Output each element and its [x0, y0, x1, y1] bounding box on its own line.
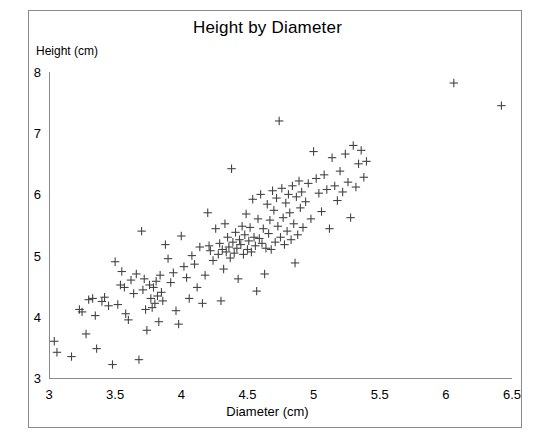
data-point — [344, 178, 352, 186]
data-point — [227, 164, 235, 172]
scatter-plot-canvas — [0, 0, 535, 442]
data-point — [268, 187, 276, 195]
data-point — [111, 258, 119, 266]
data-point — [320, 171, 328, 179]
data-point — [325, 224, 333, 232]
data-point — [256, 190, 264, 198]
data-point — [241, 231, 249, 239]
data-point — [180, 262, 188, 270]
x-tick-label: 3 — [29, 388, 69, 401]
data-point — [272, 194, 280, 202]
data-point — [88, 294, 96, 302]
data-point — [211, 224, 219, 232]
data-point — [266, 216, 274, 224]
data-point — [346, 213, 354, 221]
data-point — [254, 215, 262, 223]
data-point — [296, 204, 304, 212]
data-point — [250, 233, 258, 241]
data-point — [295, 177, 303, 185]
data-point — [284, 190, 292, 198]
data-point — [360, 173, 368, 181]
chart-figure: Height by Diameter Height (cm) Diameter … — [0, 0, 535, 442]
data-point — [217, 297, 225, 305]
data-point — [276, 233, 284, 241]
data-point — [274, 222, 282, 230]
data-point — [140, 275, 148, 283]
data-point — [237, 240, 245, 248]
data-point — [357, 146, 365, 154]
x-tick-label: 4.5 — [227, 388, 267, 401]
data-point — [84, 295, 92, 303]
data-point — [167, 278, 175, 286]
data-point — [132, 270, 140, 278]
data-point — [497, 101, 505, 109]
data-point — [297, 188, 305, 196]
data-point — [287, 235, 295, 243]
data-point — [352, 183, 360, 191]
data-point — [141, 305, 149, 313]
data-point — [317, 207, 325, 215]
data-point — [286, 209, 294, 217]
data-point — [182, 273, 190, 281]
data-point — [159, 297, 167, 305]
data-point — [288, 182, 296, 190]
data-point — [336, 167, 344, 175]
data-point — [53, 348, 61, 356]
data-point — [143, 326, 151, 334]
data-point — [137, 227, 145, 235]
data-point — [223, 233, 231, 241]
data-point — [161, 240, 169, 248]
data-point — [341, 150, 349, 158]
data-point — [201, 271, 209, 279]
y-tick-label: 8 — [23, 66, 41, 79]
x-tick-label: 6 — [426, 388, 466, 401]
data-point — [172, 306, 180, 314]
data-point — [328, 153, 336, 161]
data-point — [129, 289, 137, 297]
data-point — [92, 344, 100, 352]
x-tick-label: 5.5 — [360, 388, 400, 401]
data-point — [174, 320, 182, 328]
data-point — [135, 355, 143, 363]
data-point — [260, 270, 268, 278]
y-tick-label: 5 — [23, 249, 41, 262]
data-point — [169, 269, 177, 277]
data-point — [271, 238, 279, 246]
x-tick-label: 6.5 — [492, 388, 532, 401]
data-point — [252, 287, 260, 295]
data-point — [301, 198, 309, 206]
x-tick-label: 4 — [161, 388, 201, 401]
data-point — [315, 189, 323, 197]
data-point — [293, 231, 301, 239]
data-point — [157, 288, 165, 296]
y-tick-label: 3 — [23, 372, 41, 385]
data-point — [155, 317, 163, 325]
data-point — [108, 360, 116, 368]
data-point — [249, 195, 257, 203]
data-point — [219, 265, 227, 273]
y-tick-label: 6 — [23, 188, 41, 201]
data-point — [185, 294, 193, 302]
data-point — [245, 237, 253, 245]
data-point — [291, 259, 299, 267]
data-point — [338, 188, 346, 196]
data-point — [221, 220, 229, 228]
data-point — [292, 193, 300, 201]
data-point — [283, 227, 291, 235]
data-point — [139, 286, 147, 294]
data-point — [307, 215, 315, 223]
data-point — [190, 260, 198, 268]
data-point — [323, 185, 331, 193]
data-point — [50, 337, 58, 345]
data-point — [299, 223, 307, 231]
data-point — [204, 209, 212, 217]
data-point — [196, 243, 204, 251]
y-tick-label: 7 — [23, 127, 41, 140]
data-point — [259, 224, 267, 232]
data-point — [262, 244, 270, 252]
data-point — [239, 250, 247, 258]
data-point — [246, 223, 254, 231]
data-point — [91, 311, 99, 319]
data-point — [275, 117, 283, 125]
data-point — [205, 242, 213, 250]
